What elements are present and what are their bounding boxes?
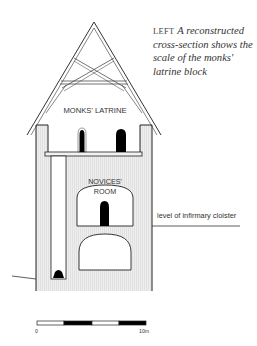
lower-arch-opening [79,234,131,270]
ground-line-left [12,276,36,279]
floor-slab [45,152,142,156]
latrine-chute [51,156,66,279]
scale-bar [37,321,146,325]
label-cloister-level: level of infirmary cloister [157,211,236,220]
figure-caption: LEFT A reconstructed cross-section shows… [153,24,257,78]
roof-structure [27,22,161,135]
scale-start-label: 0 [35,328,38,334]
label-monks-latrine: MONKS' LATRINE [58,106,132,115]
scale-end-label: 10m [139,328,149,334]
caption-lead: LEFT [153,27,175,36]
label-novices-room: NOVICES' ROOM [80,177,130,197]
label-novices-line1: NOVICES' [80,177,130,187]
label-novices-line2: ROOM [80,187,130,197]
latrine-seat-openings [78,128,126,152]
novices-doorway [100,201,109,226]
